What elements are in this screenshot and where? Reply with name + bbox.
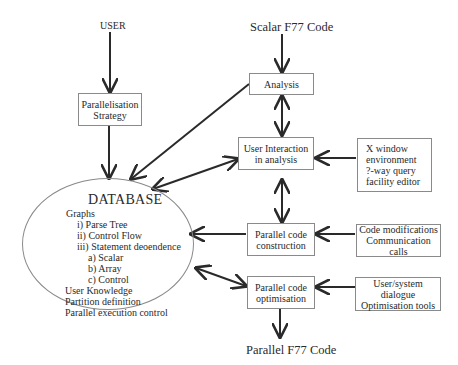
box-line: Analysis bbox=[250, 79, 313, 90]
box-line: ?-way query bbox=[366, 165, 431, 176]
box-line: Parallelisation bbox=[79, 99, 141, 110]
database-item: Graphs bbox=[66, 208, 95, 219]
database-item: Partition definition bbox=[65, 296, 141, 307]
database-item: b) Array bbox=[88, 263, 122, 274]
database-item: i) Parse Tree bbox=[77, 219, 128, 230]
box-line: Communication calls bbox=[357, 235, 440, 257]
database-item: iii) Statement deoendence bbox=[77, 241, 181, 252]
box-line: facility editor bbox=[366, 176, 431, 187]
box-line: construction bbox=[248, 240, 314, 251]
box-line: Parallel code bbox=[248, 282, 314, 293]
database-item: Parallel execution control bbox=[65, 307, 168, 318]
parallel-code-construction-box: Parallel code construction bbox=[247, 223, 315, 256]
parallelisation-strategy-box: Parallelisation Strategy bbox=[78, 93, 142, 126]
analysis-box: Analysis bbox=[249, 73, 314, 95]
code-modifications-box: Code modifications Communication calls bbox=[356, 224, 441, 257]
box-line: Strategy bbox=[79, 110, 141, 121]
box-line: Optimisation tools bbox=[356, 300, 440, 311]
database-title: DATABASE bbox=[88, 192, 162, 208]
parallel-code-label: Parallel F77 Code bbox=[246, 343, 336, 358]
database-item: a) Scalar bbox=[88, 252, 123, 263]
box-line: environment bbox=[366, 154, 431, 165]
user-system-dialogue-box: User/system dialogue Optimisation tools bbox=[355, 277, 441, 311]
user-interaction-box: User Interaction in analysis bbox=[238, 137, 314, 170]
box-line: User Interaction bbox=[239, 143, 313, 154]
box-line: in analysis bbox=[239, 154, 313, 165]
box-line: optimisation bbox=[248, 293, 314, 304]
database-item: c) Control bbox=[88, 274, 129, 285]
database-item: User Knowledge bbox=[65, 285, 132, 296]
scalar-code-label: Scalar F77 Code bbox=[250, 20, 333, 35]
user-label: USER bbox=[100, 20, 126, 31]
arrow-database-optimisation bbox=[196, 268, 246, 286]
x-window-environment-box: X window environment ?-way query facilit… bbox=[357, 138, 432, 192]
arrow-interaction-database bbox=[153, 159, 238, 189]
box-line: X window bbox=[366, 143, 431, 154]
database-item: ii) Control Flow bbox=[77, 230, 142, 241]
parallel-code-optimisation-box: Parallel code optimisation bbox=[247, 276, 315, 309]
box-line: User/system dialogue bbox=[356, 278, 440, 300]
box-line: Parallel code bbox=[248, 229, 314, 240]
box-line: Code modifications bbox=[357, 224, 440, 235]
arrow-analysis-to-database bbox=[131, 84, 249, 179]
